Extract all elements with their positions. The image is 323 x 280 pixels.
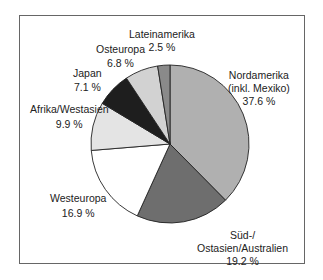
label-text: Süd-/ xyxy=(197,229,288,242)
label-value: 2.5 % xyxy=(129,41,195,54)
label-value: 9.9 % xyxy=(30,118,109,131)
label-westeuropa: Westeuropa 16.9 % xyxy=(50,192,106,220)
label-lateinamerika: Lateinamerika 2.5 % xyxy=(129,28,195,54)
label-nordamerika: Nordamerika (inkl. Mexiko) 37.6 % xyxy=(228,69,290,108)
label-value: 16.9 % xyxy=(50,207,106,220)
label-text: (inkl. Mexiko) xyxy=(228,82,290,95)
label-text: Ostasien/Australien xyxy=(197,242,288,255)
label-text: Nordamerika xyxy=(228,69,290,82)
label-sued-ostasien: Süd-/ Ostasien/Australien 19.2 % xyxy=(197,229,288,268)
label-afrika-westasien: Afrika/Westasien 9.9 % xyxy=(30,103,109,131)
label-text: Lateinamerika xyxy=(129,28,195,41)
label-value: 6.8 % xyxy=(96,57,145,70)
label-value: 37.6 % xyxy=(228,95,290,108)
label-value: 7.1 % xyxy=(73,81,102,94)
label-value: 19.2 % xyxy=(197,255,288,268)
label-japan: Japan 7.1 % xyxy=(73,67,102,94)
label-text: Afrika/Westasien xyxy=(30,103,109,116)
label-text: Westeuropa xyxy=(50,192,106,205)
